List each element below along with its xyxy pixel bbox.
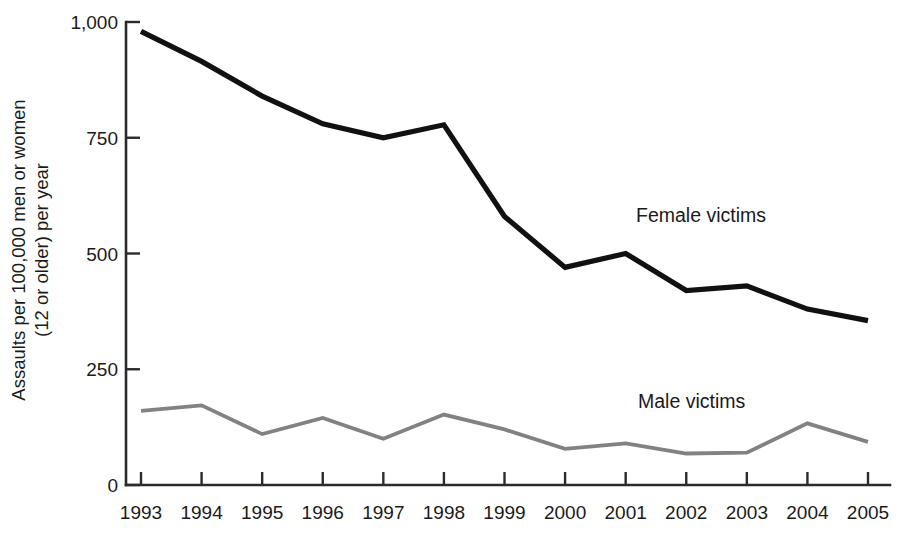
chart-svg: Assaults per 100,000 men or women (12 or… — [0, 0, 905, 550]
x-axis-tick-label: 2000 — [544, 502, 586, 523]
x-axis-tick-label: 1997 — [362, 502, 404, 523]
y-axis-title-line1: Assaults per 100,000 men or women — [8, 99, 29, 400]
y-axis-tick-label: 0 — [107, 475, 118, 496]
line-chart: Assaults per 100,000 men or women (12 or… — [0, 0, 905, 550]
y-axis-tick-labels: 02505007501,000 — [70, 12, 118, 496]
x-axis-tick-label: 2003 — [726, 502, 768, 523]
x-axis-tick-label: 1995 — [241, 502, 283, 523]
x-axis-tick-label: 1994 — [180, 502, 223, 523]
series-label-female-victims: Female victims — [636, 204, 766, 226]
y-axis-tick-label: 1,000 — [70, 12, 118, 33]
y-axis-tick-label: 750 — [86, 128, 118, 149]
y-axis-ticks — [126, 22, 140, 485]
y-axis-title-line2: (12 or older) per year — [31, 163, 52, 337]
x-axis-ticks — [141, 472, 868, 485]
x-axis-tick-label: 2001 — [605, 502, 647, 523]
series-line-female-victims — [141, 31, 868, 320]
x-axis-tick-label: 1998 — [423, 502, 465, 523]
x-axis-tick-label: 1999 — [483, 502, 525, 523]
y-axis-title: Assaults per 100,000 men or women (12 or… — [8, 99, 52, 400]
series-line-male-victims — [141, 405, 868, 453]
y-axis-tick-label: 500 — [86, 244, 118, 265]
x-axis-tick-label: 1993 — [120, 502, 162, 523]
x-axis-tick-labels: 1993199419951996199719981999200020012002… — [120, 502, 889, 523]
series-label-male-victims: Male victims — [638, 390, 746, 412]
x-axis-tick-label: 2002 — [665, 502, 707, 523]
x-axis-tick-label: 2005 — [847, 502, 889, 523]
x-axis-tick-label: 2004 — [786, 502, 829, 523]
x-axis-tick-label: 1996 — [302, 502, 344, 523]
y-axis-tick-label: 250 — [86, 359, 118, 380]
